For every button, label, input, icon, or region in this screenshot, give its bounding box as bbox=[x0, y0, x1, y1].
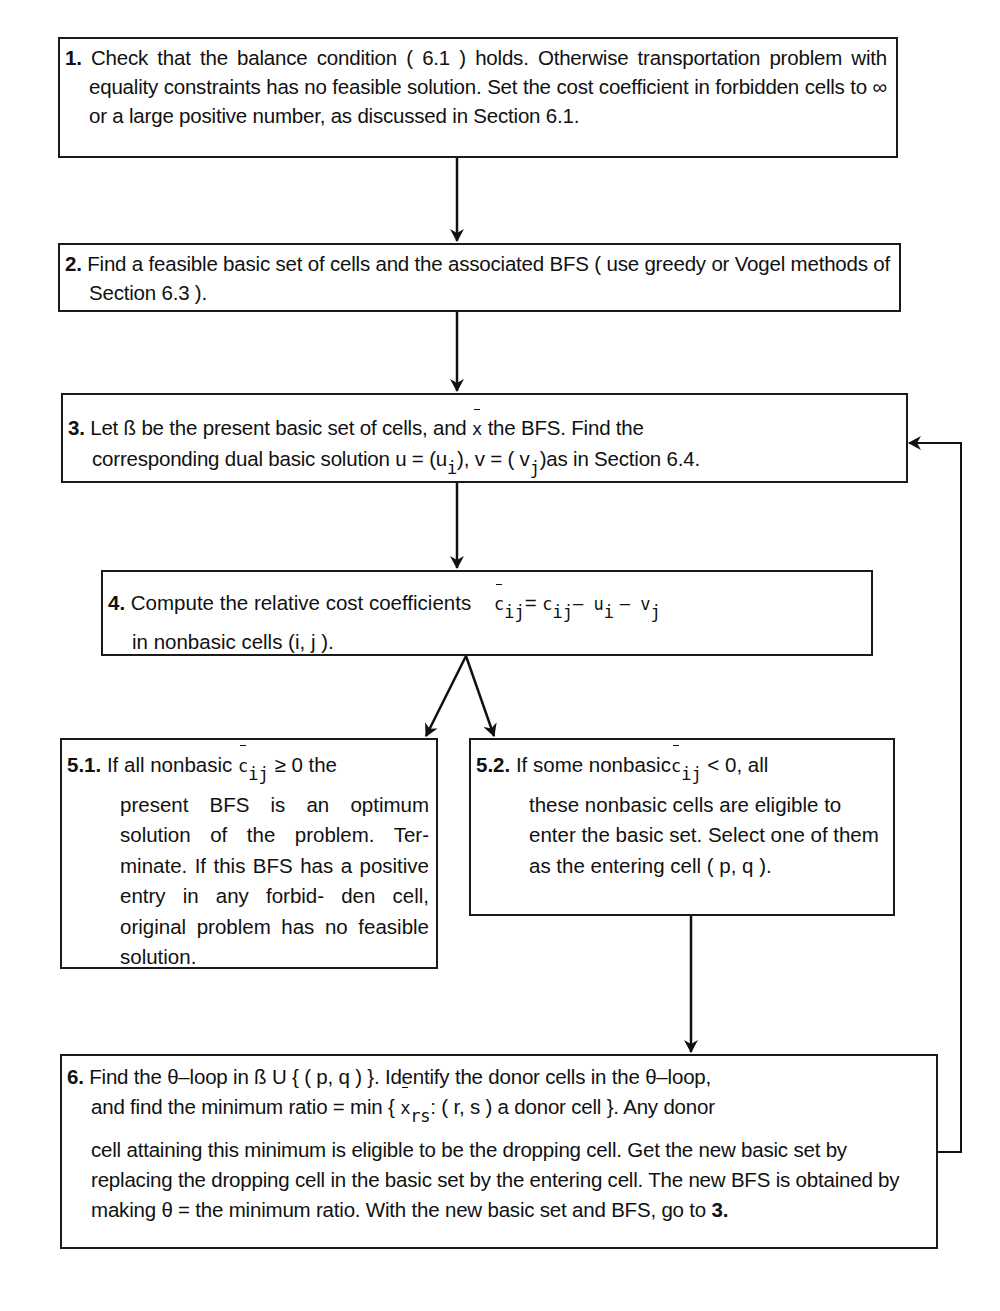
step-1-label: 1. bbox=[65, 46, 82, 69]
step-5-2-line1b: < 0, all bbox=[707, 753, 768, 776]
equals-sign: = bbox=[525, 591, 537, 614]
u-subscript: i bbox=[604, 602, 614, 622]
step-5-2-text: 5.2. If some nonbasiccij < 0, all these … bbox=[476, 750, 886, 881]
step-5-1-text: 5.1. If all nonbasic cij ≥ 0 the present… bbox=[67, 750, 429, 973]
minus-v: – v bbox=[620, 594, 651, 614]
step-3-line2c: )as in Section 6.4. bbox=[540, 447, 700, 470]
c-bar-subscript: ij bbox=[504, 602, 524, 622]
x-bar-symbol: x bbox=[472, 415, 482, 444]
arrow-4-to-5-2 bbox=[466, 656, 494, 736]
step-4-label: 4. bbox=[108, 591, 125, 614]
ge-sign: ≥ bbox=[274, 753, 285, 776]
step-5-1-line1b: 0 the bbox=[291, 753, 337, 776]
step-5-1-box: 5.1. If all nonbasic cij ≥ 0 the present… bbox=[60, 738, 438, 969]
step-6-line2b: : ( r, s ) a donor cell }. Any donor bbox=[430, 1095, 715, 1118]
c-bar-subscript: ij bbox=[248, 764, 268, 784]
step-5-1-body: present BFS is an optimum solution of th… bbox=[67, 790, 429, 973]
step-2-body: Find a feasible basic set of cells and t… bbox=[87, 252, 890, 304]
arrow-4-to-5-1 bbox=[426, 656, 466, 736]
c-bar-symbol: c bbox=[494, 590, 504, 619]
step-4-text: 4. Compute the relative cost coefficient… bbox=[108, 588, 868, 656]
relative-cost-formula: cij= cij– ui – vj bbox=[494, 591, 661, 614]
minus-u: – u bbox=[573, 594, 604, 614]
step-6-body: cell attaining this minimum is eligible … bbox=[91, 1138, 899, 1221]
x-bar-symbol: x bbox=[400, 1093, 410, 1123]
step-5-2-body: these nonbasic cells are eligible to ent… bbox=[476, 790, 886, 882]
step-5-2-line1a: If some nonbasic bbox=[516, 753, 671, 776]
step-5-1-label: 5.1. bbox=[67, 753, 101, 776]
c-subscript: ij bbox=[553, 602, 573, 622]
step-1-body: Check that the balance condition ( 6.1 )… bbox=[89, 46, 887, 127]
step-4-line2: in nonbasic cells (i, j ). bbox=[108, 627, 868, 656]
step-1-box: 1. Check that the balance condition ( 6.… bbox=[58, 37, 898, 158]
step-3-line2a: corresponding dual basic solution u = (u bbox=[92, 447, 447, 470]
c-bar-symbol: c bbox=[671, 751, 681, 782]
step-5-2-box: 5.2. If some nonbasiccij < 0, all these … bbox=[469, 738, 895, 916]
step-3-line1a: Let ß be the present basic set of cells,… bbox=[90, 416, 466, 439]
step-5-2-label: 5.2. bbox=[476, 753, 510, 776]
step-6-line2a: and find the minimum ratio = min { bbox=[91, 1095, 395, 1118]
loop-back-arrow-6-to-3 bbox=[909, 443, 961, 1152]
step-3-line2b: ), v = ( v bbox=[457, 447, 530, 470]
step-3-label: 3. bbox=[68, 416, 85, 439]
step-6-line1: Find the θ–loop in ß U { ( p, q ) }. Ide… bbox=[89, 1065, 711, 1088]
x-bar-subscript: rs bbox=[410, 1106, 430, 1126]
step-2-box: 2. Find a feasible basic set of cells an… bbox=[58, 243, 901, 312]
step-4-box: 4. Compute the relative cost coefficient… bbox=[101, 570, 873, 656]
step-4-line1: Compute the relative cost coefficients bbox=[131, 591, 471, 614]
c-bar-symbol: c bbox=[238, 751, 248, 782]
step-6-label: 6. bbox=[67, 1065, 84, 1088]
step-6-text: 6. Find the θ–loop in ß U { ( p, q ) }. … bbox=[67, 1062, 929, 1225]
step-6-box: 6. Find the θ–loop in ß U { ( p, q ) }. … bbox=[60, 1054, 938, 1249]
step-1-text: 1. Check that the balance condition ( 6.… bbox=[65, 43, 887, 130]
step-3-text: 3. Let ß be the present basic set of cel… bbox=[68, 413, 903, 483]
goto-step-3: 3. bbox=[711, 1198, 728, 1221]
c-bar-subscript: ij bbox=[681, 764, 701, 784]
step-3-line1b: the BFS. Find the bbox=[488, 416, 644, 439]
u-subscript: i bbox=[447, 458, 457, 478]
step-2-text: 2. Find a feasible basic set of cells an… bbox=[65, 249, 890, 307]
step-3-box: 3. Let ß be the present basic set of cel… bbox=[61, 393, 908, 483]
v-subscript: j bbox=[530, 458, 540, 478]
v-subscript: j bbox=[650, 602, 660, 622]
step-5-1-line1a: If all nonbasic bbox=[107, 753, 232, 776]
step-2-label: 2. bbox=[65, 252, 82, 275]
c-symbol: c bbox=[542, 594, 552, 614]
